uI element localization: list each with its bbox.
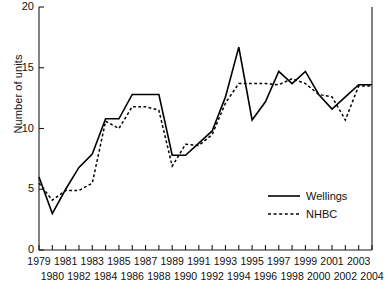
x-tick-label: 2003	[342, 255, 376, 267]
x-axis-ticks	[39, 245, 372, 250]
y-tick-label: 20	[8, 0, 34, 12]
series-line-wellings	[39, 47, 372, 213]
x-tick-label: 2004	[355, 270, 388, 282]
series-line-nhbc	[39, 79, 372, 201]
data-series-group	[39, 47, 372, 213]
y-tick-label: 15	[8, 61, 34, 73]
legend-line-samples	[268, 196, 300, 214]
y-tick-label: 10	[8, 122, 34, 134]
y-axis-ticks	[39, 7, 44, 250]
legend-label-nhbc: NHBC	[306, 208, 337, 220]
y-tick-label: 5	[8, 182, 34, 194]
y-tick-label: 0	[8, 243, 34, 255]
legend-label-wellings: Wellings	[306, 190, 347, 202]
